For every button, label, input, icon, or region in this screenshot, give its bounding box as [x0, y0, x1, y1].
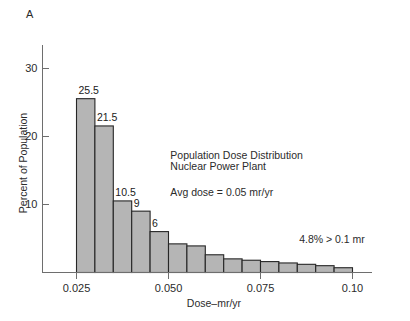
avg-dose-note: Avg dose = 0.05 mr/yr	[170, 186, 273, 198]
histogram-bar	[169, 244, 187, 273]
x-tick-label: 0.025	[63, 282, 91, 294]
x-tick-label: 0.10	[342, 282, 363, 294]
y-axis-title: Percent of Population	[17, 113, 29, 214]
figure-panel-a: A 25.521.510.596 102030 0.0250.0500.0750…	[0, 0, 410, 321]
x-axis-title: Dose–mr/yr	[187, 297, 242, 309]
histogram-bar	[113, 201, 131, 273]
histogram-bar	[316, 266, 334, 273]
chart-annotations: Population Dose DistributionNuclear Powe…	[170, 149, 365, 245]
histogram-bar	[150, 232, 168, 273]
x-tick-label: 0.075	[247, 282, 275, 294]
bar-value-label: 25.5	[79, 84, 100, 96]
histogram-bar	[261, 262, 279, 273]
distribution-title-line2: Nuclear Power Plant	[170, 160, 266, 172]
bar-value-label: 6	[152, 217, 158, 229]
histogram-bar	[95, 126, 113, 273]
histogram-bar	[77, 99, 95, 273]
distribution-title-line1: Population Dose Distribution	[170, 149, 303, 161]
y-tick-label: 30	[25, 62, 37, 74]
histogram-bar	[205, 255, 223, 273]
x-axis-ticks: 0.0250.0500.0750.10	[63, 273, 363, 294]
histogram-bar	[242, 260, 260, 272]
histogram-chart: 25.521.510.596 102030 0.0250.0500.0750.1…	[0, 0, 410, 321]
histogram-bar	[297, 264, 315, 272]
bar-value-label: 9	[134, 197, 140, 209]
histogram-bar	[279, 263, 297, 273]
tail-percent-note: 4.8% > 0.1 mr	[299, 233, 365, 245]
x-tick-label: 0.050	[155, 282, 183, 294]
histogram-bar	[224, 259, 242, 273]
histogram-bar	[187, 246, 205, 273]
bar-value-label: 21.5	[97, 111, 118, 123]
histogram-bar	[132, 211, 150, 272]
histogram-bar	[334, 268, 352, 273]
